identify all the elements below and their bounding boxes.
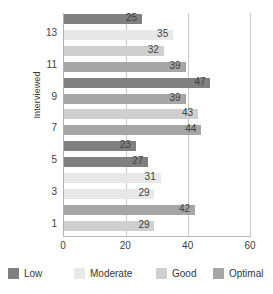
legend-label: Low <box>24 268 42 279</box>
y-tick-label: 1 <box>33 218 57 229</box>
legend-item[interactable]: Low <box>8 266 42 280</box>
legend-swatch-icon <box>74 268 85 279</box>
x-tick-label: 20 <box>110 240 140 251</box>
bar-row: 44 <box>64 125 251 135</box>
chart-legend: LowModerateGoodOptimal <box>8 266 270 282</box>
bar <box>64 205 195 215</box>
bar <box>64 94 186 104</box>
bar-value-label: 47 <box>194 76 205 87</box>
y-tick-label: 7 <box>33 122 57 133</box>
legend-label: Moderate <box>90 268 132 279</box>
bar-value-label: 43 <box>182 107 193 118</box>
bar-value-label: 23 <box>120 139 131 150</box>
plot-area: 2535323947394344232731294229 <box>63 13 251 236</box>
legend-item[interactable]: Moderate <box>74 266 132 280</box>
bar <box>64 125 201 135</box>
bar-row: 25 <box>64 14 251 24</box>
bar-value-label: 32 <box>148 44 159 55</box>
bar <box>64 109 198 119</box>
legend-swatch-icon <box>156 268 167 279</box>
legend-swatch-icon <box>213 268 224 279</box>
legend-label: Optimal <box>229 268 263 279</box>
bar-row: 42 <box>64 205 251 215</box>
bar-value-label: 29 <box>138 219 149 230</box>
bar-value-label: 29 <box>138 187 149 198</box>
bar-value-label: 31 <box>145 171 156 182</box>
x-tick-label: 0 <box>48 240 78 251</box>
bar-row: 29 <box>64 189 251 199</box>
x-axis-line <box>63 236 251 237</box>
bar-value-label: 42 <box>179 203 190 214</box>
bar-row: 39 <box>64 62 251 72</box>
bar-row: 32 <box>64 46 251 56</box>
bar-value-label: 44 <box>185 123 196 134</box>
x-tick-label: 60 <box>235 240 265 251</box>
bar-row: 27 <box>64 157 251 167</box>
legend-item[interactable]: Optimal <box>213 266 263 280</box>
legend-label: Good <box>172 268 196 279</box>
legend-swatch-icon <box>8 268 19 279</box>
x-tick-label: 40 <box>173 240 203 251</box>
y-tick-label: 9 <box>33 91 57 102</box>
bar-row: 35 <box>64 30 251 40</box>
bar-row: 43 <box>64 109 251 119</box>
bar-value-label: 27 <box>132 155 143 166</box>
legend-item[interactable]: Good <box>156 266 196 280</box>
bar-row: 23 <box>64 141 251 151</box>
bar-row: 29 <box>64 221 251 231</box>
bar-value-label: 35 <box>157 28 168 39</box>
bar-value-label: 25 <box>126 12 137 23</box>
y-tick-label: 13 <box>33 27 57 38</box>
bar-row: 39 <box>64 94 251 104</box>
bar-value-label: 39 <box>170 92 181 103</box>
bar-chart: Interviewed 2535323947394344232731294229… <box>0 0 273 294</box>
bar-row: 31 <box>64 173 251 183</box>
y-tick-label: 11 <box>33 59 57 70</box>
y-tick-label: 5 <box>33 154 57 165</box>
bar-value-label: 39 <box>170 60 181 71</box>
bar <box>64 78 210 88</box>
bar-row: 47 <box>64 78 251 88</box>
y-tick-label: 3 <box>33 186 57 197</box>
bar <box>64 62 186 72</box>
